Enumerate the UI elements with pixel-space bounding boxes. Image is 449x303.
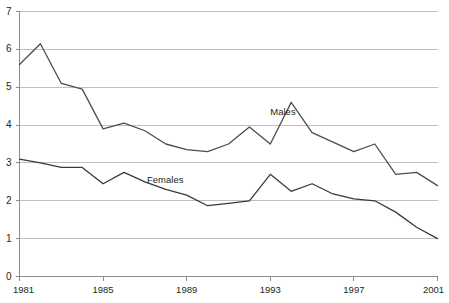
y-tick-label-5: 5 <box>0 82 12 92</box>
y-tick-label-6: 6 <box>0 44 12 54</box>
y-tick-label-3: 3 <box>0 158 12 168</box>
y-tick-label-1: 1 <box>0 234 12 244</box>
y-tick-label-4: 4 <box>0 120 12 130</box>
x-tick-label-1989: 1989 <box>167 285 207 295</box>
series-label-males: Males <box>270 107 295 117</box>
series-lines <box>20 44 438 239</box>
x-tick-label-1981: 1981 <box>4 285 44 295</box>
y-tick-label-7: 7 <box>0 7 12 17</box>
series-label-females: Females <box>147 175 183 185</box>
y-tick-label-0: 0 <box>0 272 12 282</box>
gridlines <box>20 12 438 239</box>
x-tick-label-1993: 1993 <box>250 285 290 295</box>
series-line-males <box>20 44 438 186</box>
y-axis-ticks <box>16 12 20 277</box>
x-tick-label-1997: 1997 <box>334 285 374 295</box>
x-axis-ticks <box>20 277 438 281</box>
y-tick-label-2: 2 <box>0 196 12 206</box>
x-tick-label-2001: 2001 <box>414 285 449 295</box>
x-tick-label-1985: 1985 <box>83 285 123 295</box>
series-line-females <box>20 159 438 239</box>
